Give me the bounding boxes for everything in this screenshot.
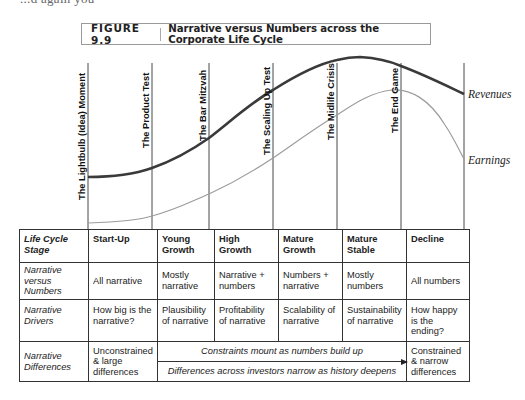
header-young-growth: Young Growth [157,230,214,263]
table-row: Narrative Drivers How big is the narrati… [20,300,470,342]
table-row: Narrative Differences Unconstrained & la… [20,342,470,382]
revenues-label: Revenues [467,88,512,100]
life-cycle-table: Life Cycle Stage Start-Up Young Growth H… [19,229,470,382]
table-cell: Narrative + numbers [214,263,278,300]
table-cell: Sustainability of narrative [342,300,406,342]
transition-cell: Constraints mount as numbers build up Di… [157,342,406,382]
header-life-cycle-stage: Life Cycle Stage [20,230,89,263]
table-row: Narrative versus Numbers All narrative M… [20,263,470,300]
header-decline: Decline [406,230,469,263]
table-cell: Numbers + narrative [278,263,342,300]
stage-label-scaling-up: The Scaling Up Test [262,67,272,155]
stage-label-midlife-crisis: The Midlife Crisis [326,63,336,140]
constraints-text: Constraints mount as numbers build up [201,346,363,357]
table-cell: Scalability of narrative [278,300,342,342]
table-cell: Unconstrained & large differences [89,342,158,382]
header-mature-stable: Mature Stable [342,230,406,263]
table-cell: Mostly numbers [342,263,406,300]
table-cell: Profitability of narrative [214,300,278,342]
header-start-up: Start-Up [89,230,158,263]
row-label-narrative-drivers: Narrative Drivers [20,300,89,342]
table-header-row: Life Cycle Stage Start-Up Young Growth H… [20,230,470,263]
row-label-narrative-differences: Narrative Differences [20,342,89,382]
stage-label-bar-mitzvah: The Bar Mitzvah [198,69,208,141]
table-cell: How big is the narrative? [89,300,158,342]
earnings-label: Earnings [467,154,511,167]
differences-note: Differences across investors narrow as h… [158,362,406,381]
stage-label-product-test: The Product Test [141,73,151,148]
arrow-right-icon [401,359,408,365]
table-cell: Mostly narrative [157,263,214,300]
table-cell: Constrained & narrow differences [406,342,469,382]
header-high-growth: High Growth [214,230,278,263]
differences-text: Differences across investors narrow as h… [168,366,396,377]
table-cell: How happy is the ending? [406,300,469,342]
table-cell: Plausibility of narrative [157,300,214,342]
stage-label-end-game: The End Game [390,68,400,133]
stage-label-lightbulb: The Lightbulb (Idea) Moment [77,73,87,200]
table-cell: All narrative [89,263,158,300]
row-label-narrative-vs-numbers: Narrative versus Numbers [20,263,89,300]
header-mature-growth: Mature Growth [278,230,342,263]
constraints-note: Constraints mount as numbers build up [158,342,406,362]
table-cell: All numbers [406,263,469,300]
